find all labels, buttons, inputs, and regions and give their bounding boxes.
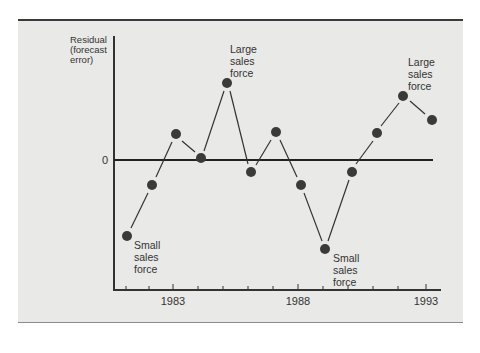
data-point-1984: [196, 153, 206, 163]
data-point-1986: [246, 167, 256, 177]
data-markers: [122, 78, 437, 254]
annotation-small-sales-force-2: Small sales force: [333, 252, 362, 288]
data-point-1982: [147, 180, 157, 190]
data-point-1991: [372, 128, 382, 138]
data-point-1993: [427, 115, 437, 125]
y-axis-label: Residual (forecast error): [70, 34, 110, 65]
annotation-line: Small: [134, 239, 160, 251]
annotation-line: sales: [134, 251, 159, 263]
annotation-line: force: [408, 80, 432, 92]
annotation-line: force: [230, 67, 254, 79]
residual-line: [131, 91, 425, 241]
x-tick-label-1988: 1988: [286, 295, 310, 307]
annotation-small-sales-force-1: Small sales force: [134, 239, 163, 275]
data-point-1985: [222, 78, 232, 88]
residual-chart: 1983 1988 1993 0 Residual (forecast erro…: [0, 0, 480, 353]
annotation-line: force: [333, 276, 357, 288]
annotation-line: sales: [230, 55, 255, 67]
annotation-large-sales-force-2: Large sales force: [408, 56, 438, 92]
annotation-line: Large: [230, 43, 257, 55]
annotation-line: sales: [408, 68, 433, 80]
annotation-line: force: [134, 263, 158, 275]
annotation-line: Small: [333, 252, 359, 264]
data-point-1989: [320, 244, 330, 254]
y-axis-label-line: error): [70, 54, 93, 65]
data-point-1987: [271, 127, 281, 137]
data-point-1983: [171, 129, 181, 139]
data-point-1988: [296, 180, 306, 190]
annotation-line: Large: [408, 56, 435, 68]
data-point-1990: [347, 167, 357, 177]
data-point-1981: [122, 231, 132, 241]
x-tick-label-1983: 1983: [161, 295, 185, 307]
x-tick-label-1993: 1993: [414, 295, 438, 307]
data-point-1992: [398, 91, 408, 101]
annotation-large-sales-force-1: Large sales force: [230, 43, 260, 79]
y-tick-label-zero: 0: [102, 154, 108, 166]
annotation-line: sales: [333, 264, 358, 276]
